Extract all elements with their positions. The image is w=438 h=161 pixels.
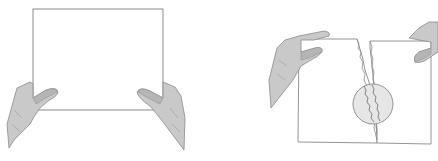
tearing-paper-illustration xyxy=(219,0,438,161)
panel-tearing-paper xyxy=(219,0,438,161)
left-hand-icon xyxy=(7,82,58,148)
magnifier-circle xyxy=(353,84,393,124)
panel-holding-paper xyxy=(0,0,219,161)
holding-paper-illustration xyxy=(0,0,219,161)
